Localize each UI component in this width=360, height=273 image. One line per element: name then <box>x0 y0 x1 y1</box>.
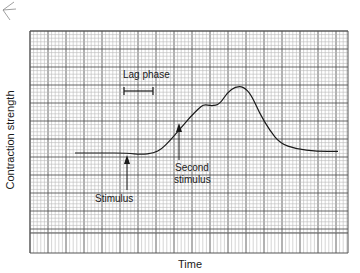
stimulus-label: Stimulus <box>95 193 133 204</box>
x-axis-label: Time <box>178 258 202 270</box>
lag-phase-label: Lag phase <box>123 69 170 80</box>
stimulus-annotation: Stimulus <box>95 155 133 204</box>
arrow-up-icon <box>124 155 130 164</box>
second-stimulus-label-line2: stimulus <box>174 174 211 185</box>
pen-mark <box>3 2 16 20</box>
chart: Lag phase Stimulus Second stimulus Contr… <box>0 0 360 273</box>
y-axis-label: Contraction strength <box>4 90 16 189</box>
grid-paper <box>30 31 348 253</box>
second-stimulus-label-line1: Second <box>175 162 209 173</box>
